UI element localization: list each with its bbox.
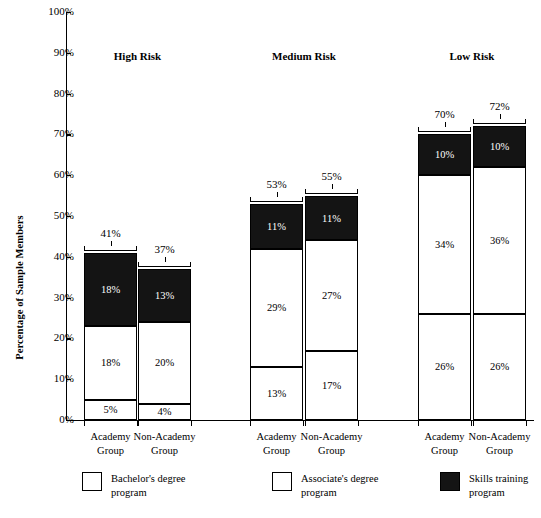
y-tick-label: 30%: [4, 291, 74, 305]
bar-segment[interactable]: 18%: [84, 253, 137, 326]
legend-label: Associate's degreeprogram: [301, 472, 378, 499]
group-header-3: Low Risk: [418, 50, 526, 62]
group-header-2: Medium Risk: [250, 50, 358, 62]
y-axis-title: Percentage of Sample Members: [14, 173, 25, 403]
x-tick-mark: [303, 420, 304, 426]
x-axis-label: Non-AcademyGroup: [287, 430, 376, 457]
x-axis-label: Non-AcademyGroup: [455, 430, 541, 457]
chart-legend: Bachelor's degreeprogramAssociate's degr…: [0, 472, 541, 518]
x-axis-label-line1: Non-Academy: [120, 430, 209, 444]
segment-value-label: 29%: [267, 302, 286, 313]
bar-segment[interactable]: 34%: [418, 175, 471, 314]
bar-segment[interactable]: 10%: [418, 134, 471, 175]
bar-segment[interactable]: 5%: [84, 400, 137, 420]
y-tick-mark: [66, 216, 71, 217]
bar-total-label: 41%: [74, 227, 147, 239]
total-bracket: [473, 119, 526, 124]
x-tick-mark: [358, 420, 359, 426]
plot-area: 100%90%80%70%60%50%40%30%20%10%0% High R…: [66, 12, 534, 420]
segment-value-label: 18%: [101, 357, 120, 368]
bar[interactable]: 26%34%10%: [418, 134, 471, 420]
x-tick-mark: [84, 420, 85, 426]
y-tick-mark: [66, 420, 71, 421]
bracket-nub: [500, 114, 501, 119]
y-tick-label: 40%: [4, 250, 74, 264]
y-tick-mark: [66, 12, 71, 13]
x-axis-label-line2: Group: [287, 444, 376, 458]
y-tick-label: 60%: [4, 168, 74, 182]
y-tick-label: 50%: [4, 209, 74, 223]
bar-segment[interactable]: 11%: [250, 204, 303, 249]
bar-segment[interactable]: 10%: [473, 126, 526, 167]
x-axis-label-line1: Non-Academy: [455, 430, 541, 444]
y-tick-label: 0%: [4, 413, 74, 427]
legend-swatch-icon: [82, 472, 102, 491]
y-tick-mark: [66, 379, 71, 380]
bar-segment[interactable]: 4%: [138, 404, 191, 420]
bracket-nub: [332, 184, 333, 189]
y-tick-label: 80%: [4, 87, 74, 101]
y-tick-mark: [66, 134, 71, 135]
total-bracket: [250, 197, 303, 202]
segment-value-label: 36%: [490, 235, 509, 246]
legend-label-line2: program: [301, 486, 378, 500]
bracket-nub: [165, 257, 166, 262]
legend-swatch-icon: [440, 472, 460, 491]
bar-segment[interactable]: 13%: [250, 367, 303, 420]
bar-segment[interactable]: 26%: [473, 314, 526, 420]
bar-segment[interactable]: 11%: [305, 196, 358, 241]
y-tick-label: 90%: [4, 46, 74, 60]
bar[interactable]: 13%29%11%: [250, 204, 303, 420]
segment-value-label: 34%: [435, 239, 454, 250]
legend-item[interactable]: Bachelor's degreeprogram: [82, 472, 185, 499]
y-tick-label: 100%: [4, 5, 74, 19]
segment-value-label: 13%: [155, 290, 174, 301]
bracket-nub: [277, 192, 278, 197]
total-bracket: [418, 127, 471, 132]
segment-value-label: 18%: [101, 284, 120, 295]
segment-value-label: 26%: [490, 361, 509, 372]
bar-segment[interactable]: 18%: [84, 326, 137, 399]
bar-segment[interactable]: 29%: [250, 249, 303, 367]
segment-value-label: 10%: [435, 149, 454, 160]
bar-segment[interactable]: 17%: [305, 351, 358, 420]
segment-value-label: 17%: [322, 380, 341, 391]
bar-segment[interactable]: 13%: [138, 269, 191, 322]
x-axis-label-line1: Non-Academy: [287, 430, 376, 444]
y-tick-mark: [66, 53, 71, 54]
legend-label-line1: Skills training: [469, 472, 528, 486]
x-tick-mark: [473, 420, 474, 426]
x-tick-mark: [471, 420, 472, 426]
legend-item[interactable]: Associate's degreeprogram: [272, 472, 378, 499]
y-tick-mark: [66, 338, 71, 339]
bar[interactable]: 5%18%18%: [84, 253, 137, 420]
legend-label-line1: Bachelor's degree: [111, 472, 185, 486]
segment-value-label: 10%: [490, 141, 509, 152]
stacked-bar-chart: Percentage of Sample Members 100%90%80%7…: [0, 0, 541, 518]
legend-swatch-icon: [272, 472, 292, 491]
y-tick-mark: [66, 175, 71, 176]
segment-value-label: 26%: [435, 361, 454, 372]
legend-label-line2: program: [111, 486, 185, 500]
segment-value-label: 5%: [104, 404, 118, 415]
bar[interactable]: 4%20%13%: [138, 269, 191, 420]
y-tick-label: 20%: [4, 331, 74, 345]
legend-item[interactable]: Skills trainingprogram: [440, 472, 528, 499]
bracket-nub: [445, 122, 446, 127]
bar[interactable]: 17%27%11%: [305, 196, 358, 420]
x-tick-mark: [191, 420, 192, 426]
bar[interactable]: 26%36%10%: [473, 126, 526, 420]
segment-value-label: 11%: [267, 221, 286, 232]
x-tick-mark: [526, 420, 527, 426]
bar-segment[interactable]: 27%: [305, 240, 358, 350]
y-tick-label: 70%: [4, 127, 74, 141]
x-tick-mark: [418, 420, 419, 426]
bar-segment[interactable]: 20%: [138, 322, 191, 404]
segment-value-label: 13%: [267, 388, 286, 399]
bar-segment[interactable]: 26%: [418, 314, 471, 420]
group-header-1: High Risk: [84, 50, 191, 62]
x-tick-mark: [305, 420, 306, 426]
bar-segment[interactable]: 36%: [473, 167, 526, 314]
legend-label-line2: program: [469, 486, 528, 500]
y-tick-mark: [66, 298, 71, 299]
